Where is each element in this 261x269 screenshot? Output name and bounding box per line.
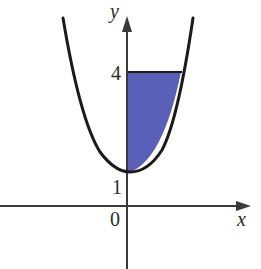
parabola-diagram: y x 0 1 4 xyxy=(0,0,261,269)
x-axis-label: x xyxy=(236,208,246,230)
tick-label-4: 4 xyxy=(111,62,121,84)
y-axis-label: y xyxy=(108,0,119,23)
origin-label: 0 xyxy=(110,208,120,230)
y-axis-arrow-icon xyxy=(122,16,132,32)
tick-label-1: 1 xyxy=(112,176,122,198)
